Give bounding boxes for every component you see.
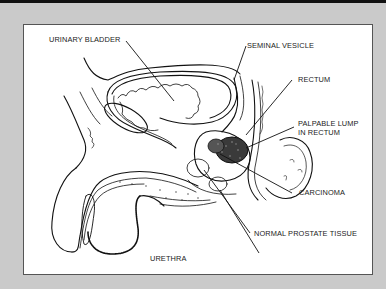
carcinoma-mass: [208, 137, 248, 163]
label-carcinoma: CARCINOMA: [299, 189, 345, 197]
label-urethra: URETHRA: [150, 255, 186, 263]
label-rectum: RECTUM: [298, 76, 330, 84]
leader-carcinoma: [220, 154, 292, 193]
label-normal-prostate-tissue: NORMAL PROSTATE TISSUE: [254, 230, 357, 238]
leader-urethra: [220, 190, 259, 253]
leader-seminal-vesicle: [234, 46, 246, 80]
label-palpable-lump-line2: IN RECTUM: [298, 129, 340, 137]
label-palpable-lump-line1: PALPABLE LUMP: [298, 120, 359, 128]
label-seminal-vesicle: SEMINAL VESICLE: [247, 42, 314, 50]
label-urinary-bladder: URINARY BLADDER: [49, 36, 120, 44]
